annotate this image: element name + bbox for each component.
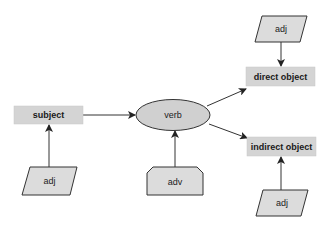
node-adj-subject-label: adj (22, 167, 77, 195)
node-direct-object-label: direct object (246, 67, 315, 86)
node-verb-label: verb (136, 100, 210, 130)
node-subject-label: subject (14, 106, 83, 124)
edge-verb-indirect-object (209, 124, 247, 138)
node-adj-direct-label: adj (255, 16, 307, 42)
node-adj-indirect-label: adj (256, 190, 308, 216)
node-adv-verb-label: adv (147, 169, 203, 195)
edge-verb-direct-object (207, 89, 246, 106)
node-indirect-object-label: indirect object (247, 137, 316, 156)
